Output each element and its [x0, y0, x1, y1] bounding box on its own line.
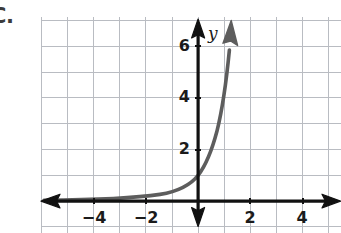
coordinate-plane-figure: 6 4 2 −4 −2 2 4 y: [0, 0, 341, 233]
graph-canvas: [0, 0, 341, 233]
graph-screenshot: C.: [0, 0, 341, 233]
axis-lines: [41, 19, 341, 227]
exponential-curve: [44, 21, 238, 201]
y-tick-label-6: 6: [166, 38, 190, 54]
x-tick-label-2: 2: [233, 210, 267, 226]
y-axis-name-label: y: [208, 25, 218, 42]
x-tick-label-neg4: −4: [72, 210, 116, 226]
x-tick-label-4: 4: [285, 210, 319, 226]
y-tick-label-2: 2: [166, 141, 190, 157]
x-tick-label-neg2: −2: [124, 210, 168, 226]
y-tick-label-4: 4: [166, 89, 190, 105]
